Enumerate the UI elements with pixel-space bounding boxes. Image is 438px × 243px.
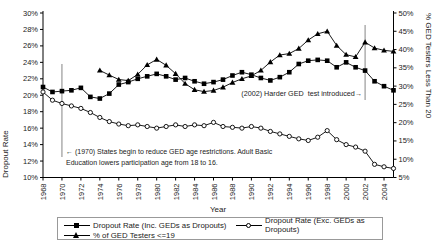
circle-marker: [136, 123, 140, 127]
legend: Dropout Rate (Inc. GEDs as Dropouts) Dro…: [57, 217, 383, 240]
triangle-marker: [106, 72, 112, 77]
x-tick-label: 2004: [380, 184, 389, 201]
circle-marker: [316, 135, 320, 139]
circle-marker: [372, 162, 376, 166]
circle-marker: [382, 165, 386, 169]
legend-label: Dropout Rate (Exc. GEDs as Dropouts): [265, 216, 376, 234]
circle-marker: [306, 138, 310, 142]
square-marker: [353, 65, 358, 70]
square-marker: [278, 75, 283, 80]
square-marker: [372, 79, 377, 84]
triangle-marker: [163, 62, 169, 67]
x-tick-label: 1980: [153, 184, 162, 201]
left-tick-label: 28%: [23, 25, 38, 34]
circle-marker: [240, 126, 244, 130]
circle-marker: [107, 119, 111, 123]
x-tick-label: 1972: [77, 184, 86, 201]
circle-marker: [145, 124, 149, 128]
right-tick-label: 45%: [399, 27, 414, 36]
circle-marker: [98, 115, 102, 119]
right-tick-label: 15%: [399, 136, 414, 145]
x-tick-labels: 1968197019721974197619781980198219841986…: [39, 178, 389, 201]
left-tick-labels: 10%12%14%16%18%20%22%24%26%28%30%: [23, 9, 43, 183]
circle-marker: [50, 98, 54, 102]
circle-marker: [391, 166, 395, 170]
circle-marker: [335, 138, 339, 142]
square-marker: [259, 76, 264, 81]
square-marker: [135, 77, 140, 82]
x-tick-label: 1970: [58, 184, 67, 201]
square-marker: [344, 60, 349, 65]
square-marker: [60, 89, 65, 94]
circle-marker: [192, 123, 196, 127]
circle-marker: [79, 106, 83, 110]
series-line: [100, 31, 394, 91]
square-marker: [306, 58, 311, 63]
triangle-marker: [154, 57, 160, 62]
circle-marker: [325, 129, 329, 133]
series-ged-testers: [97, 28, 396, 93]
square-marker: [230, 73, 235, 78]
circle-marker: [202, 124, 206, 128]
circle-marker: [117, 122, 121, 126]
circle-marker: [230, 125, 234, 129]
x-tick-label: 1968: [39, 184, 48, 201]
circle-marker: [211, 120, 215, 124]
square-marker: [98, 96, 103, 101]
square-marker: [41, 85, 46, 90]
right-tick-label: 25%: [399, 100, 414, 109]
annotation-2002-text: (2002) Harder GED test introduced→: [222, 89, 362, 98]
circle-marker-icon: [236, 221, 262, 230]
square-marker: [382, 84, 387, 89]
right-tick-labels: 5%10%15%20%25%30%35%40%45%50%: [394, 9, 414, 183]
square-marker: [164, 74, 169, 79]
annotation-1970-text: ← (1970) States begin to reduce GED age …: [66, 147, 286, 168]
triangle-marker-icon: [64, 231, 90, 240]
left-tick-label: 20%: [23, 91, 38, 100]
square-marker: [287, 70, 292, 75]
x-tick-label: 1998: [323, 184, 332, 201]
x-tick-label: 2000: [342, 184, 351, 201]
circle-marker: [164, 124, 168, 128]
square-marker: [202, 81, 207, 86]
square-marker: [391, 88, 396, 93]
circle-marker: [60, 101, 64, 105]
triangle-marker: [334, 43, 340, 48]
triangle-marker: [324, 28, 330, 33]
triangle-marker: [267, 59, 273, 64]
circle-marker: [297, 137, 301, 141]
left-tick-label: 16%: [23, 124, 38, 133]
square-marker: [79, 86, 84, 91]
circle-marker: [88, 110, 92, 114]
square-marker: [183, 76, 188, 81]
left-tick-label: 18%: [23, 107, 38, 116]
legend-entry-inc-ged: Dropout Rate (Inc. GEDs as Dropouts): [64, 221, 236, 230]
left-tick-label: 10%: [23, 173, 38, 182]
square-marker: [296, 62, 301, 67]
triangle-marker: [116, 77, 122, 82]
chart-figure: 10%12%14%16%18%20%22%24%26%28%30%5%10%15…: [0, 0, 438, 243]
square-marker: [69, 88, 74, 93]
square-marker: [116, 82, 121, 87]
circle-marker: [41, 90, 45, 94]
circle-marker: [126, 124, 130, 128]
x-tick-label: 1984: [191, 184, 200, 201]
circle-marker: [287, 134, 291, 138]
square-marker-icon: [64, 221, 90, 230]
right-tick-label: 40%: [399, 45, 414, 54]
x-tick-label: 1996: [304, 184, 313, 201]
triangle-marker: [97, 67, 103, 72]
square-marker: [221, 77, 226, 82]
left-tick-label: 24%: [23, 58, 38, 67]
right-axis-title: % GED Testers Less Than 20: [424, 13, 433, 178]
circle-marker: [344, 143, 348, 147]
triangle-marker: [372, 45, 378, 50]
right-tick-label: 35%: [399, 63, 414, 72]
right-tick-label: 30%: [399, 82, 414, 91]
square-marker: [88, 95, 93, 100]
square-marker: [325, 58, 330, 63]
square-marker: [363, 68, 368, 73]
triangle-marker: [305, 37, 311, 42]
legend-row-1: Dropout Rate (Inc. GEDs as Dropouts) Dro…: [64, 220, 376, 230]
circle-marker: [155, 126, 159, 130]
